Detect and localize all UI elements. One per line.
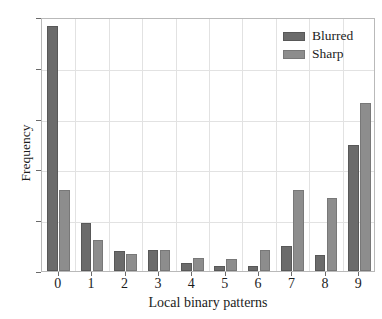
x-tick-mark <box>325 272 326 276</box>
gridline-horizontal <box>42 222 374 223</box>
x-tick-label-0: 0 <box>43 276 73 292</box>
bar-sharp-7 <box>293 190 304 271</box>
bar-blurred-9 <box>348 145 359 271</box>
bar-sharp-8 <box>327 198 338 271</box>
y-tick-mark <box>36 18 41 19</box>
x-axis-label: Local binary patterns <box>41 295 375 311</box>
gridline-vertical <box>276 19 277 271</box>
legend-label: Sharp <box>312 46 344 62</box>
x-tick-mark <box>191 272 192 276</box>
gridline-vertical <box>109 19 110 271</box>
x-tick-mark <box>225 272 226 276</box>
x-tick-mark <box>58 272 59 276</box>
gridline-horizontal <box>42 171 374 172</box>
bar-blurred-1 <box>81 223 92 271</box>
bar-sharp-4 <box>193 258 204 271</box>
x-tick-mark <box>125 272 126 276</box>
y-axis-label: Frequency <box>18 93 34 213</box>
gridline-vertical <box>142 19 143 271</box>
bar-blurred-0 <box>47 26 58 271</box>
y-tick-mark <box>36 272 41 273</box>
x-tick-label-4: 4 <box>176 276 206 292</box>
gridline-vertical <box>209 19 210 271</box>
bar-blurred-5 <box>214 266 225 271</box>
x-tick-label-1: 1 <box>76 276 106 292</box>
gridline-vertical <box>242 19 243 271</box>
x-tick-mark <box>91 272 92 276</box>
x-tick-mark <box>258 272 259 276</box>
y-tick-mark <box>36 69 41 70</box>
gridline-horizontal <box>42 70 374 71</box>
bar-blurred-6 <box>248 266 259 271</box>
bar-sharp-0 <box>59 190 70 271</box>
bar-sharp-9 <box>360 103 371 271</box>
bar-blurred-8 <box>315 255 326 271</box>
bar-sharp-5 <box>226 259 237 271</box>
x-tick-mark <box>158 272 159 276</box>
x-tick-label-9: 9 <box>343 276 373 292</box>
x-tick-label-2: 2 <box>110 276 140 292</box>
gridline-vertical <box>176 19 177 271</box>
x-tick-label-6: 6 <box>243 276 273 292</box>
legend-label: Blurred <box>312 28 353 44</box>
chart-page: 0.00.10.20.30.40.5 Frequency 0123456789 … <box>0 0 382 319</box>
bar-sharp-2 <box>126 254 137 271</box>
legend-swatch-sharp <box>283 50 305 59</box>
legend-swatch-blurred <box>283 32 305 41</box>
y-tick-mark <box>36 120 41 121</box>
legend-item-sharp[interactable]: Sharp <box>283 46 379 62</box>
gridline-horizontal <box>42 121 374 122</box>
cropped-top-text <box>4 0 184 3</box>
x-tick-label-3: 3 <box>143 276 173 292</box>
x-tick-mark <box>291 272 292 276</box>
bar-blurred-4 <box>181 263 192 271</box>
bar-blurred-3 <box>148 250 159 271</box>
bar-sharp-6 <box>260 250 271 271</box>
x-tick-label-7: 7 <box>277 276 307 292</box>
x-tick-label-5: 5 <box>210 276 240 292</box>
gridline-vertical <box>75 19 76 271</box>
x-tick-mark <box>358 272 359 276</box>
bar-blurred-7 <box>281 246 292 271</box>
chart-legend: BlurredSharp <box>283 28 379 64</box>
legend-item-blurred[interactable]: Blurred <box>283 28 379 44</box>
y-tick-mark <box>36 221 41 222</box>
y-tick-mark <box>36 170 41 171</box>
bar-sharp-1 <box>93 240 104 271</box>
x-tick-label-8: 8 <box>310 276 340 292</box>
bar-sharp-3 <box>160 250 171 271</box>
bar-blurred-2 <box>114 251 125 271</box>
